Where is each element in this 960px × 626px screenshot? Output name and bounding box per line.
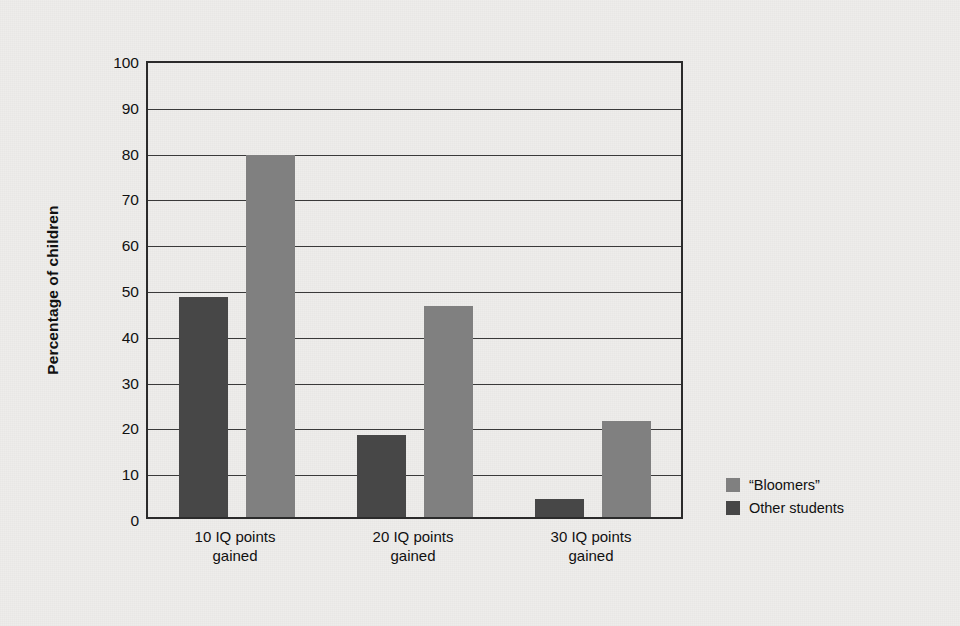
y-axis-tick-label: 0 [79, 511, 139, 531]
bar-1-light [246, 155, 295, 517]
bar-2-light [424, 306, 473, 517]
legend-item-1: “Bloomers” [726, 477, 844, 493]
y-axis-tick-label: 10 [79, 465, 139, 485]
y-axis-tick-label: 60 [79, 236, 139, 256]
plot-area: 0102030405060708090100 [146, 61, 683, 519]
bar-3-dark [535, 499, 584, 517]
x-axis-label-line: 20 IQ points [325, 527, 501, 546]
y-axis-tick-label: 30 [79, 374, 139, 394]
y-axis-tick-label: 20 [79, 419, 139, 439]
y-axis-tick-label: 50 [79, 282, 139, 302]
x-axis-label-line: 10 IQ points [147, 527, 323, 546]
x-axis-label-3: 30 IQ pointsgained [503, 527, 679, 565]
bars-group [148, 63, 681, 517]
x-axis-label-line: gained [325, 546, 501, 565]
x-axis-label-line: 30 IQ points [503, 527, 679, 546]
chart-legend: “Bloomers”Other students [726, 477, 844, 523]
bar-2-dark [357, 435, 406, 517]
x-axis-label-line: gained [503, 546, 679, 565]
legend-item-2: Other students [726, 500, 844, 516]
x-axis-label-2: 20 IQ pointsgained [325, 527, 501, 565]
y-axis-tick-label: 100 [79, 53, 139, 73]
legend-swatch-icon [726, 501, 740, 515]
legend-label: Other students [749, 500, 844, 516]
y-axis-tick-label: 70 [79, 190, 139, 210]
bar-3-light [602, 421, 651, 517]
y-axis-tick-label: 40 [79, 328, 139, 348]
bar-1-dark [179, 297, 228, 517]
legend-swatch-icon [726, 478, 740, 492]
y-axis-title: Percentage of children [38, 61, 68, 519]
bar-chart-figure: Percentage of children 01020304050607080… [0, 0, 960, 626]
legend-label: “Bloomers” [749, 477, 820, 493]
x-axis-label-1: 10 IQ pointsgained [147, 527, 323, 565]
x-axis-label-line: gained [147, 546, 323, 565]
y-axis-tick-label: 80 [79, 145, 139, 165]
y-axis-tick-label: 90 [79, 99, 139, 119]
